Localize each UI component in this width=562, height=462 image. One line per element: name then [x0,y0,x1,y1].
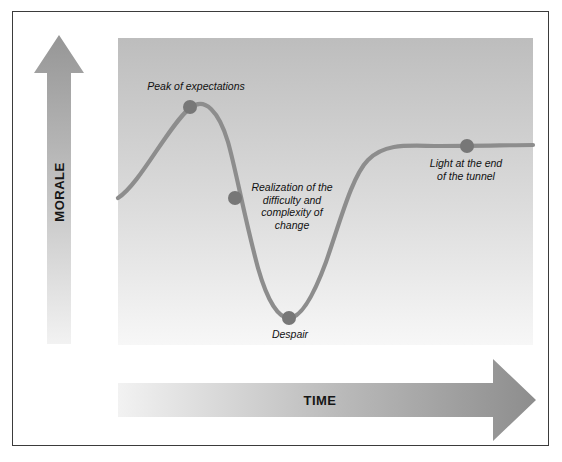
annotation-despair: Despair [272,328,308,341]
marker-light-at-the-end-of-the-tunnel [460,139,474,153]
diagram-canvas: MORALE TIME Peak of expectations Realiza… [0,0,562,462]
morale-curve-layer [0,0,562,462]
axis-label-morale: MORALE [52,162,67,221]
marker-realization [228,191,242,205]
annotation-realization-of-difficulty: Realization of the difficulty and comple… [251,181,332,231]
annotation-light-at-the-end-of-the-tunnel: Light at the end of the tunnel [430,157,502,182]
marker-despair [282,311,296,325]
annotation-peak-of-expectations: Peak of expectations [147,80,244,93]
marker-peak-of-expectations [183,100,197,114]
axis-label-time: TIME [303,393,336,408]
